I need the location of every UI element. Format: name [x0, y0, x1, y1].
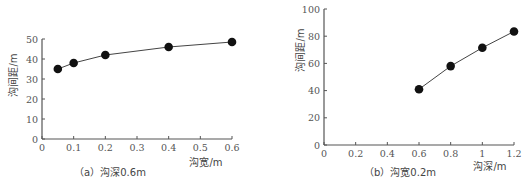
y-tick-label: 0 — [314, 140, 320, 151]
x-tick-label: 0.4 — [380, 148, 395, 159]
chart-caption: （b）沟宽0.2m — [364, 166, 436, 178]
data-point-marker — [446, 62, 455, 71]
x-tick-label: 0 — [321, 148, 327, 159]
y-tick-label: 80 — [308, 31, 320, 42]
x-tick-label: 1 — [479, 148, 485, 159]
chart-b-ditch-spacing-vs-depth: 00.20.40.60.811.2020406080100沟间距/m沟深/m（b… — [0, 0, 528, 192]
data-point-marker — [478, 43, 487, 52]
x-tick-label: 0.2 — [348, 148, 363, 159]
axes: 00.20.40.60.811.2020406080100 — [302, 4, 522, 160]
x-tick-label: 1.2 — [506, 148, 521, 159]
x-tick-label: 0.8 — [443, 148, 458, 159]
x-axis-label: 沟深/m — [473, 160, 506, 172]
y-tick-label: 60 — [308, 58, 320, 69]
y-axis-label: 沟间距/m — [294, 28, 306, 71]
y-tick-label: 100 — [302, 4, 320, 15]
data-line — [419, 31, 514, 89]
data-point-marker — [510, 27, 519, 36]
y-tick-label: 20 — [308, 112, 320, 123]
data-point-marker — [415, 85, 424, 94]
x-tick-label: 0.6 — [411, 148, 426, 159]
y-tick-label: 40 — [308, 85, 320, 96]
